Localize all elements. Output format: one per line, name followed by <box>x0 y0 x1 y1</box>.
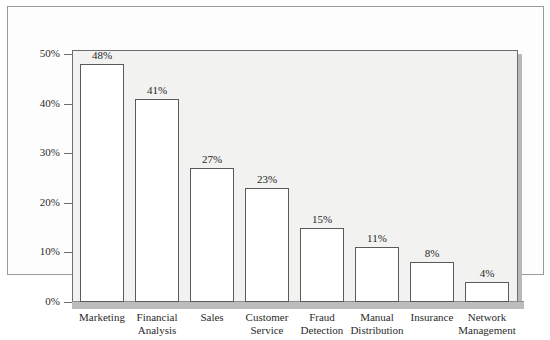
y-axis-tick-label: 10% <box>20 246 60 257</box>
y-axis-tick <box>64 153 73 154</box>
x-axis-label-line: Network <box>442 311 532 324</box>
bar[interactable] <box>465 282 509 302</box>
x-axis-baseline <box>72 302 524 309</box>
x-axis-label-line: Distribution <box>332 324 422 337</box>
bar[interactable] <box>245 188 289 302</box>
y-axis-tick <box>64 203 73 204</box>
bar-value-label: 23% <box>245 174 289 185</box>
y-axis-tick <box>64 54 73 55</box>
y-axis-tick-label: 20% <box>20 197 60 208</box>
y-axis-tick-label: 40% <box>20 98 60 109</box>
bar-value-label: 15% <box>300 214 344 225</box>
x-axis-label-line: Analysis <box>112 324 202 337</box>
x-axis-category-label: NetworkManagement <box>442 311 532 337</box>
chart-screenshot: 50%40%30%20%10%0% 48%41%27%23%15%11%8%4%… <box>0 0 550 340</box>
bar[interactable] <box>135 99 179 302</box>
x-axis-label-line: Management <box>442 324 532 337</box>
y-axis-tick-label: 50% <box>20 48 60 59</box>
bar-value-label: 41% <box>135 85 179 96</box>
y-axis-tick <box>64 104 73 105</box>
y-axis-tick-label: 30% <box>20 147 60 158</box>
y-axis-tick-label: 0% <box>20 296 60 307</box>
y-axis-line <box>72 50 73 302</box>
bar-value-label: 8% <box>410 248 454 259</box>
bar-value-label: 48% <box>80 50 124 61</box>
y-axis-tick <box>64 252 73 253</box>
bar[interactable] <box>355 247 399 302</box>
bar-value-label: 4% <box>465 268 509 279</box>
bar-value-label: 11% <box>355 233 399 244</box>
bar[interactable] <box>410 262 454 302</box>
bar-value-label: 27% <box>190 154 234 165</box>
bar[interactable] <box>300 228 344 302</box>
bar[interactable] <box>80 64 124 302</box>
bar[interactable] <box>190 168 234 302</box>
